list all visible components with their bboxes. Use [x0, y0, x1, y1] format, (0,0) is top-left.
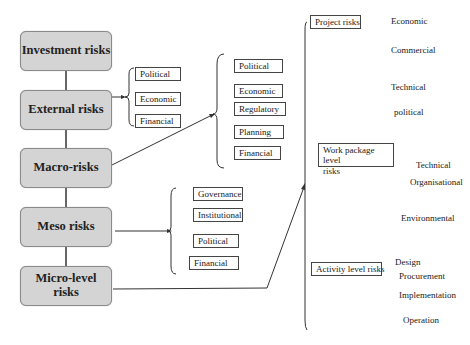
level-external-risks: External risks	[20, 90, 112, 130]
external-item-economic: Economic	[135, 92, 181, 106]
external-item-financial: Financial	[135, 114, 181, 128]
activity-risks-box: Activity level risks	[311, 262, 382, 276]
macro-item-economic: Economic	[234, 84, 283, 98]
level-investment-risks: Investment risks	[20, 31, 112, 71]
meso-item-political: Political	[193, 234, 239, 248]
macro-item-planning: Planning	[234, 125, 284, 139]
project-item-technical: Technical	[391, 82, 426, 92]
activity-item-operation: Operation	[403, 315, 439, 325]
level-micro-risks: Micro-level risks	[20, 266, 112, 306]
activity-item-procurement: Procurement	[399, 271, 445, 281]
work-package-risks-box: Work package level risks	[318, 143, 394, 167]
work-package-item-environmental: Environmental	[401, 213, 455, 223]
meso-item-institutional: Institutional	[193, 208, 243, 222]
project-risks-box: Project risks	[310, 15, 361, 29]
project-item-commercial: Commercial	[391, 45, 436, 55]
meso-item-financial: Financial	[189, 256, 239, 270]
macro-item-financial: Financial	[234, 146, 281, 160]
work-package-item-technical: Technical	[416, 160, 451, 170]
external-item-political: Political	[135, 67, 181, 81]
meso-item-governance: Governance	[193, 187, 243, 201]
macro-item-political: Political	[234, 59, 283, 73]
activity-item-design: Design	[395, 257, 421, 267]
work-package-item-organisational: Organisational	[410, 177, 463, 187]
activity-item-implementation: Implementation	[399, 290, 456, 300]
level-meso-risks: Meso risks	[20, 207, 112, 247]
project-item-economic: Economic	[391, 16, 428, 26]
project-item-political: political	[394, 107, 424, 117]
level-macro-risks: Macro-risks	[20, 148, 112, 188]
macro-item-regulatory: Regulatory	[234, 102, 286, 116]
